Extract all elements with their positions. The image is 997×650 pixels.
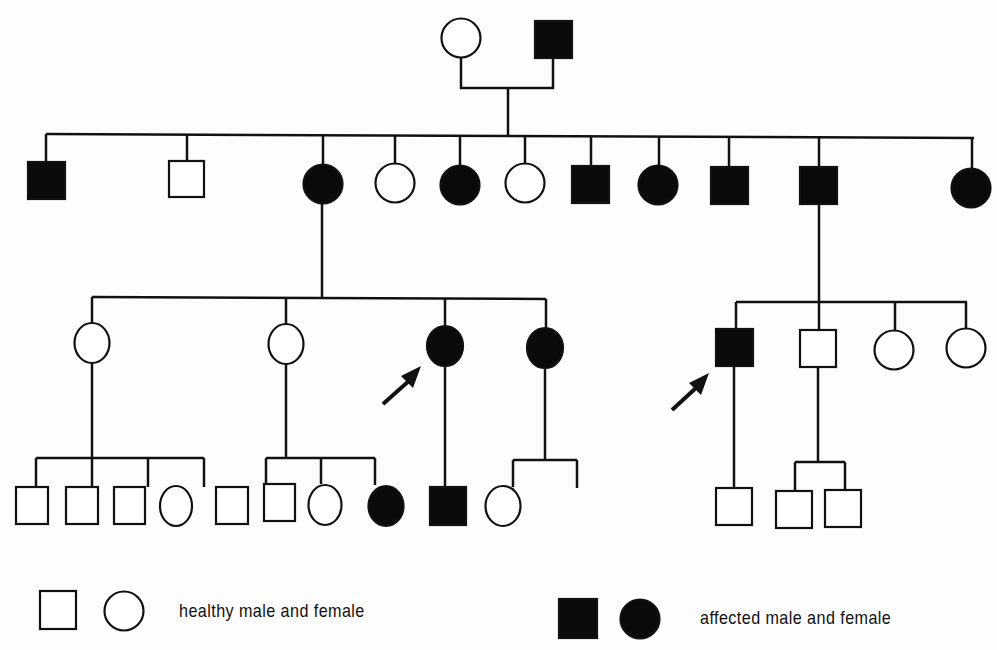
legend-healthy-male-icon <box>40 591 76 629</box>
gen3-male-healthy <box>800 330 836 367</box>
gen3-female-affected-proband <box>427 326 463 366</box>
pedigree-canvas <box>0 0 997 650</box>
gen3-female-healthy <box>875 331 914 370</box>
gen2-female-affected <box>952 169 991 208</box>
gen2-female-healthy <box>506 164 545 203</box>
gen4-female-healthy <box>160 486 192 526</box>
pedigree-diagram: healthy male and female affected male an… <box>0 0 997 650</box>
legend-affected-male-icon <box>559 599 597 638</box>
gen2-female-affected <box>304 165 343 204</box>
gen2-female-healthy <box>376 164 415 203</box>
gen3-male-affected-proband <box>716 329 753 366</box>
gen3-female-healthy <box>947 329 986 368</box>
connector-lines <box>36 57 974 491</box>
gen2-female-affected <box>441 166 480 205</box>
gen3-female-affected <box>527 328 563 368</box>
gen4-male-healthy <box>216 487 248 524</box>
gen4-male-healthy <box>776 491 812 528</box>
gen2-male-affected <box>28 162 65 199</box>
individuals <box>16 19 991 529</box>
gen2-male-affected <box>711 167 748 204</box>
gen2-female-affected <box>639 166 678 205</box>
gen4-male-healthy <box>114 487 145 524</box>
gen4-male-healthy <box>264 484 295 521</box>
gen4-male-healthy <box>16 487 48 524</box>
gen4-female-healthy <box>486 486 521 526</box>
gen4-male-affected <box>430 487 466 525</box>
proband-arrow-icon <box>383 366 421 404</box>
proband-arrow-icon <box>672 373 709 410</box>
gen4-female-healthy <box>309 485 342 525</box>
gen2-male-healthy <box>169 161 204 197</box>
gen4-male-healthy <box>716 488 752 525</box>
legend-healthy-female-icon <box>105 592 144 631</box>
legend-healthy-label: healthy male and female <box>179 600 365 622</box>
gen4-male-healthy <box>825 490 861 527</box>
legend-affected-label: affected male and female <box>700 607 891 629</box>
gen4-female-affected <box>369 486 404 526</box>
gen1-female-healthy <box>442 19 481 58</box>
gen3-female-healthy <box>269 324 304 364</box>
gen3-female-healthy <box>75 323 110 363</box>
gen2-male-affected <box>572 166 609 203</box>
gen4-male-healthy <box>66 487 98 524</box>
legend-affected-female-icon <box>621 600 660 639</box>
gen1-male-affected <box>535 21 572 58</box>
gen2-male-affected <box>800 167 837 204</box>
